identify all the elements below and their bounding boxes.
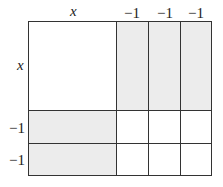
tile-x-by-neg1-col1	[116, 21, 148, 110]
tile-x-by-neg1-col3	[180, 21, 211, 110]
grid-vline-1	[116, 21, 117, 176]
left-label-neg1-a: −1	[9, 121, 25, 136]
grid-hline-1	[28, 110, 212, 111]
top-label-neg1-a: −1	[124, 6, 140, 21]
left-label-x: x	[17, 58, 24, 73]
tile-neg1-by-x-row2	[28, 143, 116, 175]
top-label-neg1-c: −1	[188, 6, 204, 21]
grid-hline-2	[28, 143, 212, 144]
grid-vline-2	[148, 21, 149, 176]
tile-neg1-by-x-row1	[28, 110, 116, 143]
grid-outer-bottom	[28, 175, 212, 176]
tile-x-by-neg1-col2	[148, 21, 180, 110]
top-label-x: x	[70, 4, 77, 19]
left-label-neg1-b: −1	[9, 153, 25, 168]
top-label-neg1-b: −1	[157, 6, 173, 21]
grid-vline-3	[180, 21, 181, 176]
grid-outer-left	[28, 21, 29, 176]
grid-outer-right	[211, 21, 212, 176]
grid-outer-top	[28, 21, 212, 22]
